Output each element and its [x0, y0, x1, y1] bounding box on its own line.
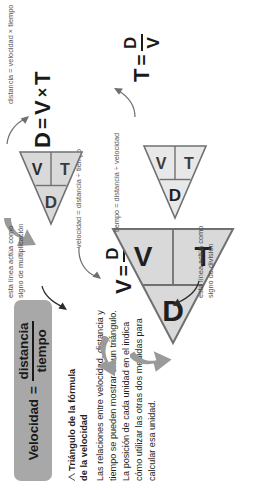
formula-tiempo-fraction: D V — [122, 34, 162, 51]
formula-title-text: Velocidad = distancia tiempo — [17, 321, 49, 461]
title-denominator: tiempo — [35, 328, 49, 375]
arrow-center-to-tiempo — [130, 336, 176, 382]
formula-tiempo: T = D V — [122, 34, 162, 82]
formula-tiempo-lead: T — [129, 69, 155, 82]
caption-heading-line2: de la velocidad — [79, 414, 89, 481]
formula-tiempo-numerator: D — [122, 37, 139, 49]
formula-tiempo-equals: = — [131, 54, 153, 65]
formula-distancia-equals: = — [32, 118, 54, 129]
triangle-tiempo-letter-bottom-right: T — [184, 155, 194, 172]
arrow-note-multiplication — [36, 284, 68, 318]
rotated-page-wrapper: Velocidad = distancia tiempo Triángulo d… — [0, 0, 261, 494]
arrow-to-tiempo-formula — [112, 86, 138, 118]
formula-distancia-lead: D — [30, 132, 56, 148]
formula-distancia-b: T — [30, 72, 56, 85]
triangle-bullet-icon — [68, 473, 75, 481]
formula-distancia-a: V — [30, 100, 56, 115]
note-multiplication-sign: esta línea actúa como signo de multiplic… — [6, 218, 26, 298]
title-fraction: distancia tiempo — [17, 321, 49, 382]
arrow-to-distancia-formula — [4, 114, 30, 146]
caption-heading-line1: Triángulo de la fórmula — [67, 369, 77, 471]
label-distancia-expanded: distancia = velocidad × tiempo — [6, 0, 16, 104]
title-equals: = — [26, 386, 41, 394]
caption-heading: Triángulo de la fórmula de la velocidad — [66, 305, 91, 481]
title-lead: Velocidad — [26, 399, 41, 460]
label-tiempo-expanded: tiempo = distancia ÷ velocidad — [112, 108, 122, 232]
triangle-tiempo-letter-bottom-left: V — [156, 155, 167, 172]
diagram-page: Velocidad = distancia tiempo Triángulo d… — [0, 0, 261, 494]
triangle-tiempo: D V T — [142, 144, 208, 220]
formula-tiempo-denominator: V — [145, 37, 162, 48]
formula-title-chip: Velocidad = distancia tiempo — [14, 300, 52, 481]
arrow-center-to-distancia — [86, 336, 132, 382]
formula-tiempo-bar — [141, 34, 143, 51]
formula-distancia: D = V × T — [30, 72, 56, 148]
title-numerator: distancia — [17, 321, 31, 382]
triangle-tiempo-letter-top: D — [169, 186, 181, 205]
formula-distancia-operator: × — [34, 88, 52, 97]
arrow-note-division — [172, 278, 202, 312]
arrow-to-velocidad-formula — [76, 246, 102, 280]
triangle-main-letter-bottom-left: V — [134, 241, 153, 272]
